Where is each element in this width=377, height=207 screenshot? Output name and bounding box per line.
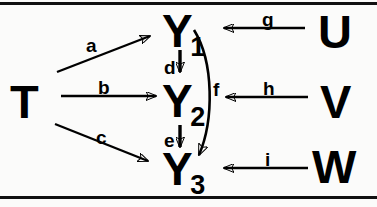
node-T: T	[10, 78, 38, 125]
node-Y3-subscript: 3	[190, 170, 205, 200]
edge-label-g: g	[262, 10, 274, 29]
node-W-label: W	[312, 140, 356, 193]
node-Y1-label: Y	[162, 5, 192, 57]
path-diagram: T Y1 Y2 Y3 U V W a b c d e f g h i	[0, 0, 377, 207]
edge-label-h: h	[263, 79, 275, 98]
node-V-label: V	[320, 75, 351, 128]
node-Y2: Y2	[162, 78, 207, 124]
edge-a-line	[57, 36, 150, 72]
node-Y3: Y3	[162, 146, 207, 192]
node-Y2-subscript: 2	[190, 102, 205, 132]
node-T-label: T	[10, 75, 38, 128]
edge-label-i: i	[265, 150, 270, 169]
node-Y1: Y1	[162, 8, 207, 54]
node-U: U	[318, 8, 351, 55]
node-V: V	[320, 78, 351, 125]
edge-label-c: c	[96, 128, 107, 147]
node-U-label: U	[318, 5, 351, 58]
edge-label-e: e	[164, 131, 175, 150]
edge-label-a: a	[86, 36, 97, 55]
node-Y1-subscript: 1	[190, 32, 205, 62]
node-Y2-label: Y	[162, 75, 192, 127]
node-W: W	[312, 143, 356, 190]
edge-label-b: b	[98, 78, 110, 97]
edge-label-d: d	[164, 58, 176, 77]
edge-label-f: f	[213, 80, 219, 99]
